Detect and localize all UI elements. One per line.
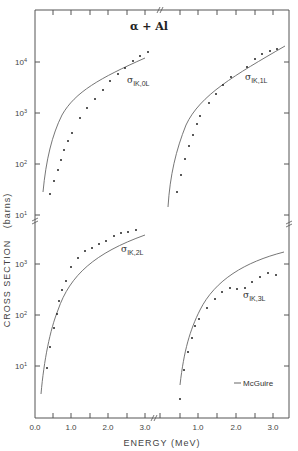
x-tick-0-left: 0.0 [29,423,41,432]
y-tick-1e4-top: 104 [15,57,27,67]
right-y-ticks [284,62,289,366]
points-ik0l [49,51,149,195]
y-tick-1e1-top: 101 [15,210,27,220]
left-y-ticks [35,62,40,366]
x-tick-3-right: 3.0 [267,423,279,432]
mcguire-curves [41,46,285,394]
y-axis-title-main: CROSS SECTION [2,240,12,328]
label-ik2l: σIK,2L [121,244,144,256]
x-tick-labels: 0.0 1.0 2.0 3.0 1.0 2.0 3.0 [29,423,279,432]
figure-title: α + Al [130,20,168,33]
label-ik3l: σIK,3L [243,290,266,302]
data-points [46,48,278,400]
y-tick-1e1-bottom: 101 [15,361,27,371]
legend-label: McGuire [243,379,274,388]
x-tick-2-right: 2.0 [230,423,242,432]
series-labels: σIK,0L σIK,1L σIK,2L σIK,3L [121,72,268,302]
bottom-ticks [53,413,273,418]
y-axis-break-marks [32,218,292,227]
y-tick-1e2-top: 102 [15,159,27,169]
legend: McGuire [234,379,274,388]
x-tick-2-left: 2.0 [102,423,114,432]
points-ik1l [176,48,278,193]
y-tick-1e2-bottom: 102 [15,310,27,320]
x-tick-3-left: 3.0 [139,423,151,432]
label-ik0l: σIK,0L [127,75,150,87]
y-axis-title: CROSS SECTION (barns) [2,193,12,328]
label-ik1l: σIK,1L [245,72,268,84]
x-tick-1-right: 1.0 [192,423,204,432]
top-ticks [53,10,273,15]
x-axis-title: ENERGY (MeV) [124,438,201,448]
y-axis-title-unit: (barns) [2,193,12,229]
y-tick-labels: 104 103 102 101 103 102 101 [15,57,27,371]
cross-section-figure: 104 103 102 101 103 102 101 0.0 1.0 2.0 … [0,0,298,451]
curve-ik1l [168,46,285,207]
x-tick-1-left: 1.0 [65,423,77,432]
y-tick-1e3-top: 103 [15,108,27,118]
y-tick-1e3-bottom: 103 [15,259,27,269]
curve-ik3l [180,252,284,385]
